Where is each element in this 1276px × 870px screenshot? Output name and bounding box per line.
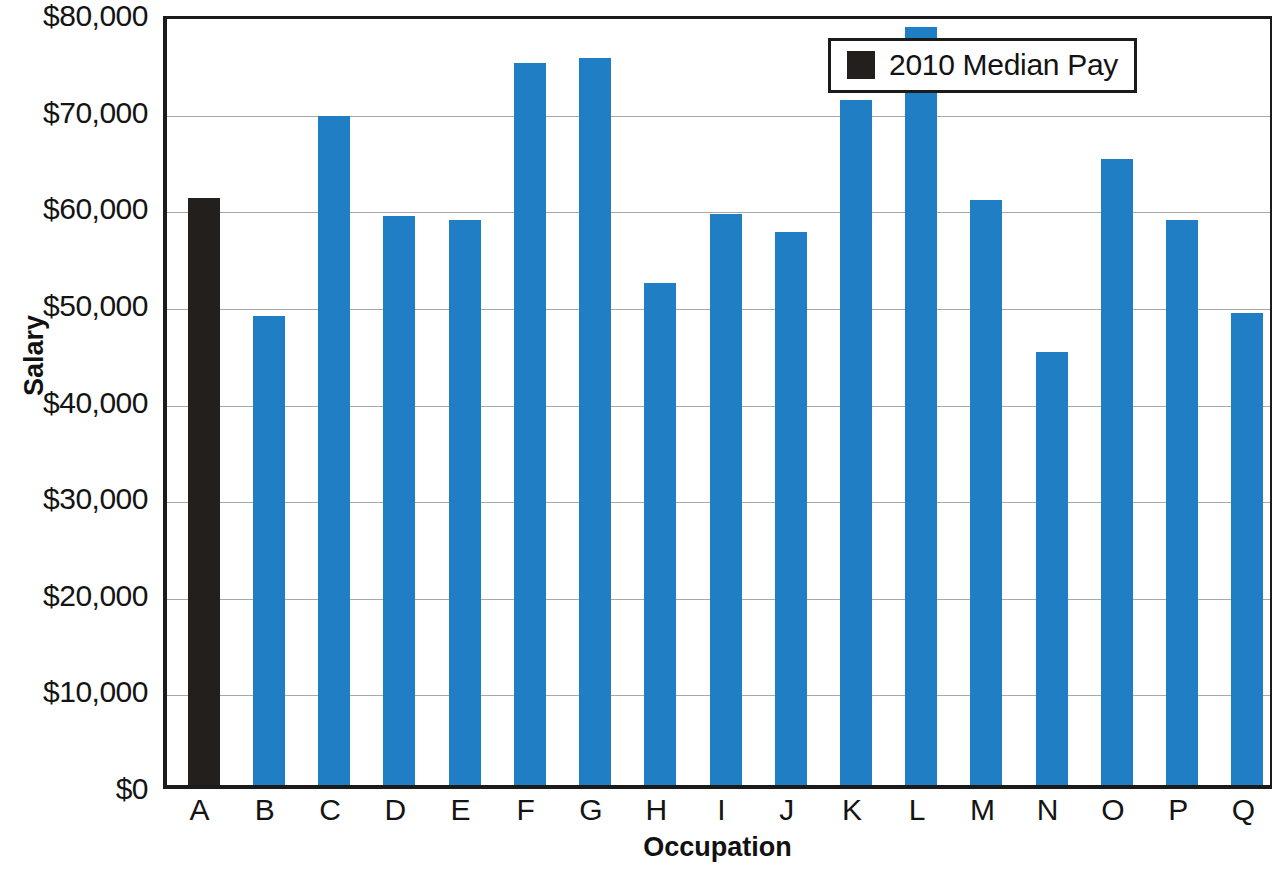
bar-O xyxy=(1101,159,1133,785)
bar-J xyxy=(775,232,807,785)
bar-L xyxy=(905,27,937,785)
bar-K xyxy=(840,100,872,785)
x-tick-label: I xyxy=(717,793,725,827)
x-tick-label: Q xyxy=(1232,793,1255,827)
x-tick-label: L xyxy=(909,793,926,827)
x-tick-label: B xyxy=(255,793,275,827)
y-tick-label: $50,000 xyxy=(43,289,148,323)
x-tick-label: P xyxy=(1168,793,1188,827)
x-axis-title: Occupation xyxy=(163,832,1272,863)
bar-chart: Salary $0$10,000$20,000$30,000$40,000$50… xyxy=(0,0,1276,870)
bar-B xyxy=(253,316,285,785)
legend-label-2010-median-pay: 2010 Median Pay xyxy=(889,48,1118,82)
y-tick-label: $10,000 xyxy=(43,675,148,709)
bar-F xyxy=(514,63,546,785)
y-tick-label: $0 xyxy=(116,772,148,806)
x-tick-label: C xyxy=(319,793,341,827)
bar-H xyxy=(644,283,676,785)
bar-N xyxy=(1036,352,1068,785)
bar-Q xyxy=(1231,313,1263,785)
x-tick-label: G xyxy=(579,793,602,827)
bar-M xyxy=(970,200,1002,785)
x-tick-label: O xyxy=(1101,793,1124,827)
y-tick-label: $30,000 xyxy=(43,482,148,516)
x-tick-label: F xyxy=(517,793,535,827)
y-tick-label: $40,000 xyxy=(43,386,148,420)
x-tick-label: J xyxy=(779,793,794,827)
x-tick-label: K xyxy=(842,793,862,827)
bar-D xyxy=(383,216,415,785)
y-tick-label: $80,000 xyxy=(43,0,148,33)
y-tick-label: $60,000 xyxy=(43,192,148,226)
x-tick-label: H xyxy=(645,793,667,827)
y-tick-label: $70,000 xyxy=(43,96,148,130)
y-axis-tick-labels: $0$10,000$20,000$30,000$40,000$50,000$60… xyxy=(0,0,162,870)
bar-P xyxy=(1166,220,1198,785)
bar-G xyxy=(579,58,611,785)
bar-C xyxy=(318,116,350,785)
bar-E xyxy=(449,220,481,785)
y-tick-label: $20,000 xyxy=(43,579,148,613)
x-tick-label: N xyxy=(1037,793,1059,827)
x-tick-label: E xyxy=(451,793,471,827)
bar-A xyxy=(188,198,220,785)
bar-I xyxy=(710,214,742,785)
x-tick-label: A xyxy=(190,793,210,827)
bars-layer xyxy=(167,19,1270,785)
plot-area xyxy=(163,16,1272,789)
x-tick-label: D xyxy=(384,793,406,827)
x-tick-label: M xyxy=(970,793,995,827)
legend: 2010 Median Pay xyxy=(828,38,1137,93)
legend-swatch-2010-median-pay xyxy=(847,51,875,79)
x-axis-tick-labels: ABCDEFGHIJKLMNOPQ xyxy=(163,793,1272,837)
